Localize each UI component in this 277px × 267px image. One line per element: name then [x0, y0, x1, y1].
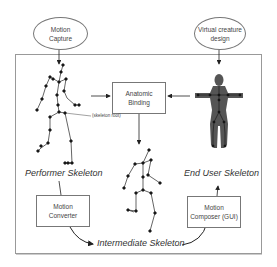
- motion-converter-box: Motion Converter: [36, 195, 90, 227]
- arrow-converter-to-intermediate: [70, 227, 93, 244]
- motion-capture-node: Motion Capture: [33, 17, 88, 50]
- arrow-composer-to-enduser: [217, 186, 218, 196]
- anatomic-binding-box: Anatomic Binding: [112, 82, 166, 114]
- virtual-creature-design-node: Virtual creature design: [194, 17, 246, 50]
- intermediate-skeleton-label: Intermediate Skeleton: [97, 238, 185, 248]
- end-user-figure: [195, 74, 243, 148]
- end-user-skeleton-label: End User Skeleton: [184, 168, 259, 178]
- performer-skeleton-label: Performer Skeleton: [25, 168, 103, 178]
- skeleton-root-label: (skeleton root): [92, 113, 121, 118]
- motion-composer-box: Motion Composer (GUI): [187, 196, 241, 228]
- intermediate-skeleton: [123, 149, 162, 233]
